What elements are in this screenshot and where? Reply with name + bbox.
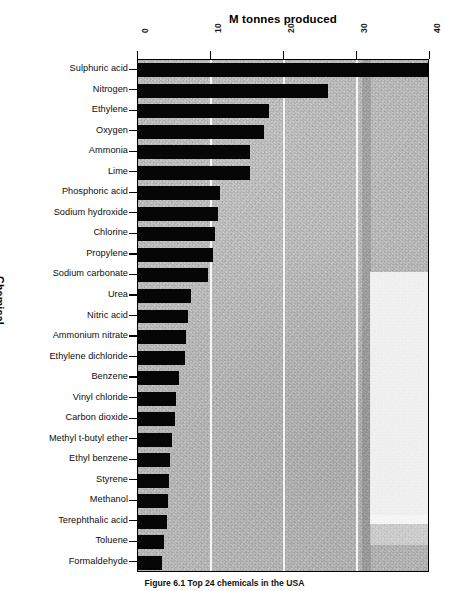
y-axis-tick-mark bbox=[129, 130, 137, 131]
y-axis-tick-mark bbox=[129, 397, 137, 398]
y-axis-category-label: Propylene bbox=[12, 248, 128, 258]
bar bbox=[138, 392, 176, 406]
bar bbox=[138, 268, 208, 282]
bar bbox=[138, 125, 264, 139]
figure-chart: M tonnes produced 010203040 Chemical Sul… bbox=[0, 0, 449, 591]
figure-caption: Figure 6.1 Top 24 chemicals in the USA bbox=[0, 578, 449, 591]
bar bbox=[138, 494, 168, 508]
bar bbox=[138, 310, 188, 324]
x-axis-tick-label: 20 bbox=[286, 23, 296, 33]
y-axis-tick-mark bbox=[129, 233, 137, 234]
y-axis-tick-mark bbox=[129, 561, 137, 562]
y-axis-category-label: Urea bbox=[12, 289, 128, 299]
y-axis-tick-mark bbox=[129, 479, 137, 480]
y-axis-category-label: Oxygen bbox=[12, 125, 128, 135]
y-axis-category-label: Ammonia bbox=[12, 145, 128, 155]
y-axis-category-label: Toluene bbox=[12, 535, 128, 545]
bar bbox=[138, 535, 164, 549]
x-axis-tick-label: 10 bbox=[213, 23, 223, 33]
y-axis-tick-mark bbox=[129, 294, 137, 295]
gridline bbox=[283, 60, 285, 572]
y-axis-category-label: Benzene bbox=[12, 371, 128, 381]
y-axis-tick-mark bbox=[129, 541, 137, 542]
bar bbox=[138, 453, 170, 467]
y-axis-category-label: Lime bbox=[12, 166, 128, 176]
y-axis-category-label: Chlorine bbox=[12, 227, 128, 237]
bar bbox=[138, 371, 179, 385]
gridline bbox=[356, 60, 358, 572]
y-axis-tick-mark bbox=[129, 459, 137, 460]
y-axis-tick-mark bbox=[129, 151, 137, 152]
scan-light-patch bbox=[370, 272, 429, 524]
y-axis-tick-mark bbox=[129, 356, 137, 357]
y-axis-category-label: Carbon dioxide bbox=[12, 412, 128, 422]
y-axis-tick-mark bbox=[129, 69, 137, 70]
y-axis-category-label: Ethyl benzene bbox=[12, 453, 128, 463]
x-axis-tick-label: 0 bbox=[140, 28, 150, 33]
bar bbox=[138, 556, 162, 570]
y-axis-category-label: Methanol bbox=[12, 494, 128, 504]
bar bbox=[138, 227, 215, 241]
x-axis-tick-mark bbox=[210, 51, 211, 59]
bar bbox=[138, 412, 175, 426]
x-axis-tick-label: 30 bbox=[359, 23, 369, 33]
y-axis-tick-mark bbox=[129, 500, 137, 501]
bar bbox=[138, 104, 269, 118]
y-axis-tick-mark bbox=[129, 335, 137, 336]
y-axis-category-label: Nitrogen bbox=[12, 84, 128, 94]
y-axis-tick-mark bbox=[129, 520, 137, 521]
bar bbox=[138, 145, 250, 159]
y-axis-tick-mark bbox=[129, 253, 137, 254]
x-axis-tick-mark bbox=[356, 51, 357, 59]
y-axis-category-label: Vinyl chloride bbox=[12, 392, 128, 402]
x-axis-tick-mark bbox=[283, 51, 284, 59]
bar bbox=[138, 84, 328, 98]
y-axis-category-label: Phosphoric acid bbox=[12, 186, 128, 196]
y-axis-tick-mark bbox=[129, 418, 137, 419]
y-axis-tick-mark bbox=[129, 110, 137, 111]
y-axis-title: Chemical bbox=[0, 276, 6, 325]
y-axis-tick-mark bbox=[129, 171, 137, 172]
bar bbox=[138, 207, 218, 221]
chart-title: M tonnes produced bbox=[137, 13, 429, 25]
y-axis-tick-mark bbox=[129, 376, 137, 377]
y-axis-category-label: Styrene bbox=[12, 474, 128, 484]
bar bbox=[138, 351, 185, 365]
y-axis-tick-mark bbox=[129, 212, 137, 213]
bar bbox=[138, 515, 167, 529]
y-axis-category-label: Methyl t-butyl ether bbox=[12, 433, 128, 443]
bar bbox=[138, 289, 191, 303]
y-axis-category-label: Ethylene bbox=[12, 104, 128, 114]
x-axis-tick-label: 40 bbox=[432, 23, 442, 33]
y-axis-category-label: Ethylene dichloride bbox=[12, 351, 128, 361]
bar bbox=[138, 166, 250, 180]
y-axis-category-label: Nitric acid bbox=[12, 310, 128, 320]
bar bbox=[138, 474, 169, 488]
y-axis-tick-mark bbox=[129, 192, 137, 193]
bar bbox=[138, 433, 172, 447]
y-axis-category-label: Formaldehyde bbox=[12, 556, 128, 566]
y-axis-tick-mark bbox=[129, 315, 137, 316]
x-axis-tick-mark bbox=[429, 51, 430, 59]
y-axis-tick-mark bbox=[129, 274, 137, 275]
y-axis-tick-mark bbox=[129, 89, 137, 90]
bar bbox=[138, 63, 428, 77]
y-axis-category-label: Ammonium nitrate bbox=[12, 330, 128, 340]
bar bbox=[138, 248, 213, 262]
y-axis-tick-mark bbox=[129, 438, 137, 439]
bar bbox=[138, 330, 186, 344]
y-axis-category-label: Sodium carbonate bbox=[12, 268, 128, 278]
plot-area bbox=[137, 59, 429, 572]
y-axis-category-label: Terephthalic acid bbox=[12, 515, 128, 525]
y-axis-category-label: Sodium hydroxide bbox=[12, 207, 128, 217]
y-axis-category-label: Sulphuric acid bbox=[12, 63, 128, 73]
x-axis-tick-mark bbox=[137, 51, 138, 59]
bar bbox=[138, 186, 220, 200]
scan-light-patch-lower bbox=[370, 515, 429, 545]
